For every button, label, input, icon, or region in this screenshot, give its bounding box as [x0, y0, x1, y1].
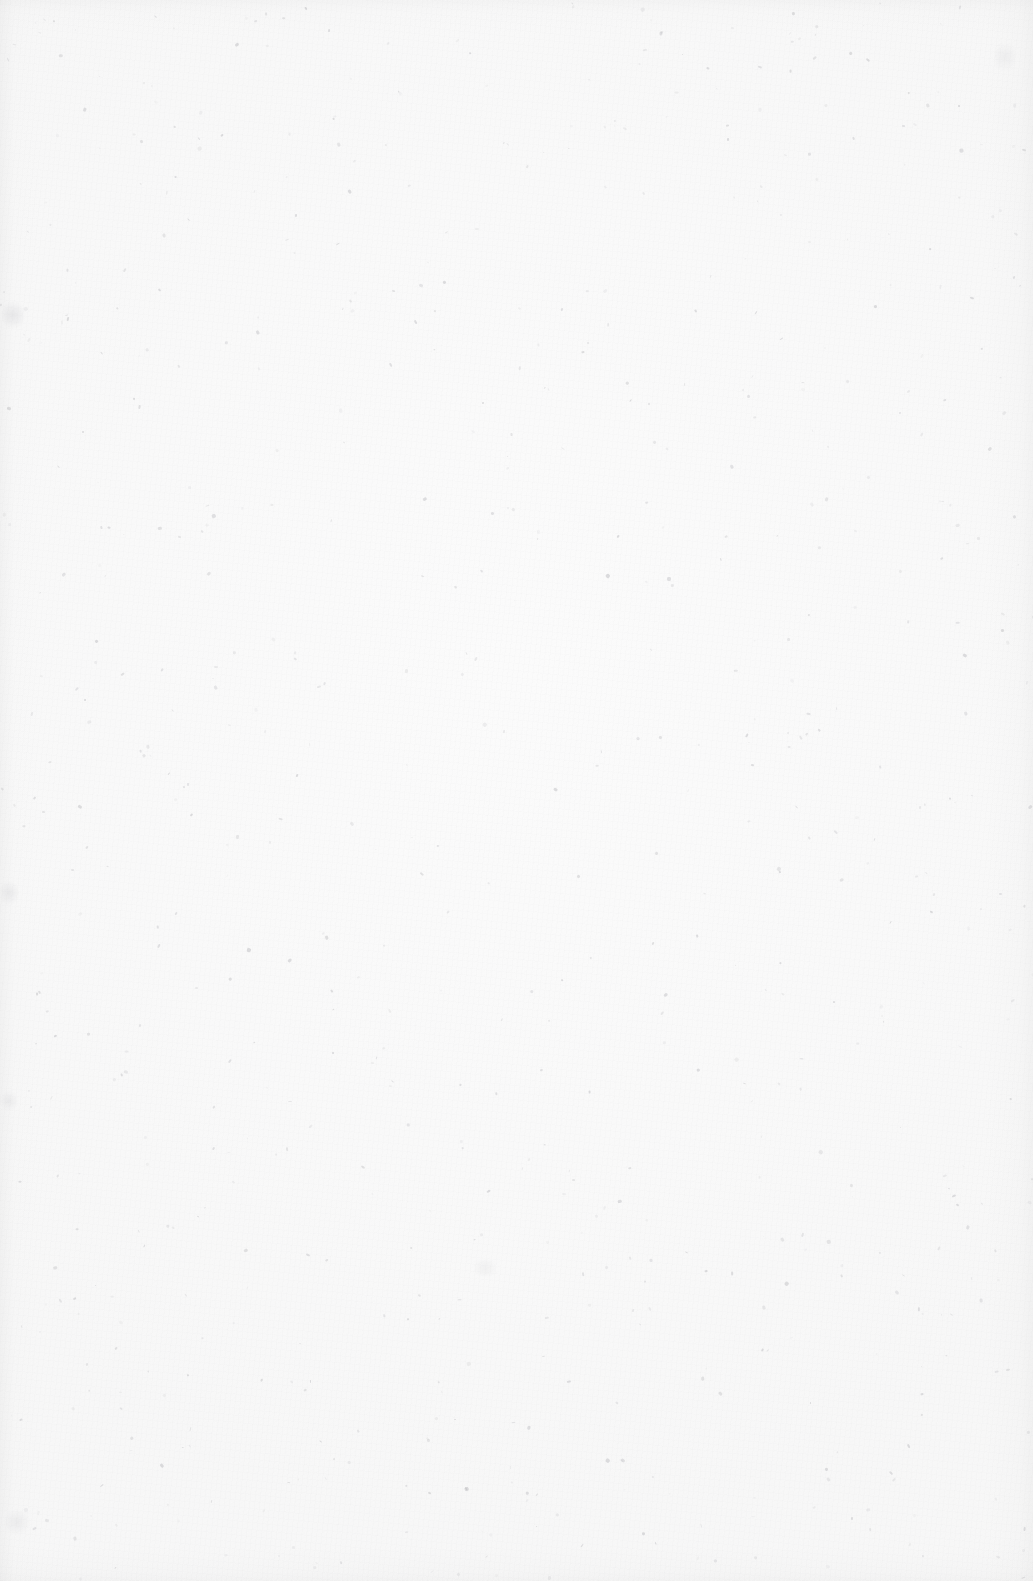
dust-speck	[78, 1312, 80, 1314]
dust-speck	[469, 52, 472, 54]
dust-speck	[936, 91, 939, 94]
dust-speck	[286, 1482, 289, 1484]
dust-speck	[1012, 515, 1016, 519]
dust-speck	[1, 787, 4, 790]
dust-speck	[53, 20, 55, 22]
dust-speck	[995, 1371, 999, 1373]
page-body-text	[96, 104, 97, 105]
dust-speck	[59, 53, 63, 57]
dust-speck	[866, 58, 870, 62]
dust-speck	[949, 797, 951, 800]
dust-speck	[53, 1035, 56, 1038]
dust-speck	[456, 1572, 460, 1576]
dust-speck	[45, 1304, 47, 1307]
dust-speck	[262, 1509, 266, 1513]
dust-speck	[339, 1561, 342, 1565]
dust-speck	[254, 19, 258, 22]
dust-speck	[115, 1566, 117, 1568]
dust-speck	[788, 32, 791, 36]
dust-speck	[1018, 564, 1020, 566]
dust-speck	[86, 1363, 89, 1366]
dust-speck	[22, 333, 24, 335]
dust-speck	[14, 803, 17, 806]
dust-speck	[1010, 1098, 1012, 1100]
dust-speck	[715, 88, 717, 90]
dust-speck	[869, 1527, 872, 1530]
dust-speck	[825, 1564, 830, 1568]
dust-speck	[966, 543, 969, 545]
dust-speck	[959, 5, 962, 9]
dust-speck	[173, 27, 175, 29]
dust-speck	[1006, 1368, 1010, 1371]
dust-speck	[19, 1418, 23, 1421]
dust-speck	[814, 33, 816, 35]
dust-speck	[700, 1523, 702, 1527]
dust-speck	[65, 314, 68, 316]
dust-speck	[675, 92, 679, 94]
dust-speck	[941, 1314, 942, 1316]
page-header-text	[0, 0, 1, 1]
dust-speck	[731, 27, 734, 30]
dust-speck	[669, 1493, 671, 1495]
dust-speck	[3, 512, 6, 516]
dust-speck	[42, 811, 45, 813]
dust-speck	[951, 1194, 955, 1197]
dust-speck	[1028, 805, 1032, 809]
dust-speck	[993, 1249, 997, 1253]
dust-speck	[99, 76, 101, 78]
dust-speck	[19, 1180, 22, 1182]
dust-speck	[714, 1558, 718, 1562]
dust-speck	[998, 893, 1001, 895]
dust-speck	[1014, 103, 1017, 107]
dust-speck	[56, 133, 60, 137]
dust-speck	[958, 196, 961, 199]
dust-speck	[641, 7, 646, 12]
dust-speck	[87, 719, 92, 723]
scanned-page	[0, 0, 1033, 1581]
dust-speck	[791, 41, 794, 43]
dust-speck	[56, 1174, 59, 1178]
dust-speck	[292, 1546, 295, 1549]
dust-speck	[922, 1555, 924, 1557]
dust-speck	[100, 1484, 104, 1487]
dust-speck	[1023, 905, 1026, 908]
dust-speck	[1011, 999, 1015, 1002]
page-number	[0, 0, 1, 1]
dust-speck	[75, 687, 79, 691]
dust-speck	[349, 77, 352, 80]
dust-speck	[315, 1562, 318, 1565]
dust-speck	[1021, 1576, 1025, 1578]
dust-speck	[643, 48, 647, 51]
dust-speck	[556, 1512, 560, 1516]
dust-speck	[57, 465, 60, 468]
dust-speck	[44, 201, 47, 203]
dust-speck	[660, 31, 664, 35]
dust-speck	[815, 25, 819, 29]
dust-speck	[42, 19, 45, 22]
dust-speck	[75, 1228, 78, 1231]
dust-speck	[958, 105, 960, 107]
dust-speck	[980, 908, 982, 911]
dust-speck	[54, 1266, 58, 1270]
dust-speck	[398, 91, 402, 95]
dust-speck	[851, 1517, 853, 1520]
dust-speck	[405, 1485, 408, 1487]
dust-speck	[1001, 629, 1005, 632]
dust-speck	[967, 926, 970, 930]
dust-speck	[997, 1279, 1001, 1282]
dust-speck	[0, 304, 2, 306]
dust-speck	[142, 81, 144, 84]
dust-speck	[481, 1530, 483, 1533]
dust-speck	[45, 1519, 50, 1523]
dust-speck	[21, 1325, 23, 1328]
dust-speck	[78, 805, 82, 809]
dust-speck	[966, 1225, 970, 1230]
page-footer-text	[0, 0, 1, 1]
dust-speck	[225, 1554, 228, 1556]
dust-speck	[10, 1129, 11, 1131]
dust-speck	[27, 230, 29, 232]
dust-speck	[66, 269, 68, 272]
dust-speck	[313, 1565, 317, 1569]
dust-speck	[1026, 680, 1028, 684]
dust-speck	[456, 39, 460, 42]
